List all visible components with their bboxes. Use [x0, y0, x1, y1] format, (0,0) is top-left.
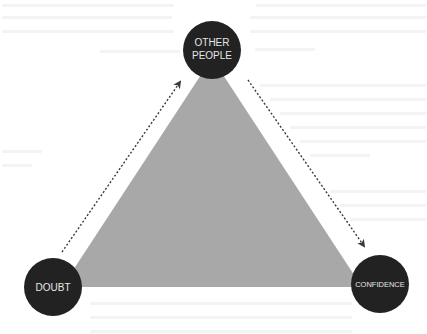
node-confidence: CONFIDENCE — [351, 255, 409, 313]
node-other-people: OTHER PEOPLE — [183, 21, 241, 79]
node-label-line-1: OTHER — [195, 37, 230, 48]
node-doubt: DOUBT — [24, 258, 82, 316]
node-label-line-2: PEOPLE — [192, 50, 232, 61]
triangle-shape — [62, 58, 362, 287]
triangle-diagram: OTHER PEOPLE DOUBT CONFIDENCE — [0, 0, 427, 334]
node-label: DOUBT — [36, 282, 71, 293]
node-label: CONFIDENCE — [355, 280, 405, 289]
